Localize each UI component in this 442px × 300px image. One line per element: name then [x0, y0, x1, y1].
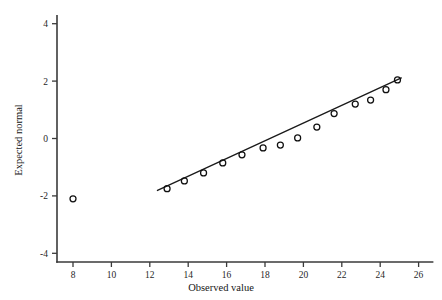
x-tick-label: 16	[222, 270, 232, 280]
normal-probability-plot: 420-2-4 8101214161820222426 Observed val…	[0, 0, 442, 300]
y-tick-label: 0	[43, 134, 48, 144]
x-tick-label: 8	[71, 270, 76, 280]
y-axis-title: Expected normal	[13, 104, 24, 176]
y-tick-label: 2	[43, 77, 48, 87]
y-tick-label: -4	[40, 249, 48, 259]
plot-background	[0, 0, 442, 300]
x-tick-label: 18	[260, 270, 270, 280]
x-tick-label: 20	[299, 270, 309, 280]
x-tick-label: 10	[107, 270, 117, 280]
x-tick-label: 24	[375, 270, 385, 280]
x-tick-label: 22	[337, 270, 347, 280]
x-tick-label: 26	[414, 270, 424, 280]
chart-canvas: 420-2-4 8101214161820222426 Observed val…	[0, 0, 442, 300]
y-tick-label: -2	[40, 191, 48, 201]
x-tick-label: 12	[145, 270, 155, 280]
x-axis-title: Observed value	[188, 282, 254, 293]
x-tick-label: 14	[183, 270, 193, 280]
y-tick-label: 4	[43, 19, 48, 29]
